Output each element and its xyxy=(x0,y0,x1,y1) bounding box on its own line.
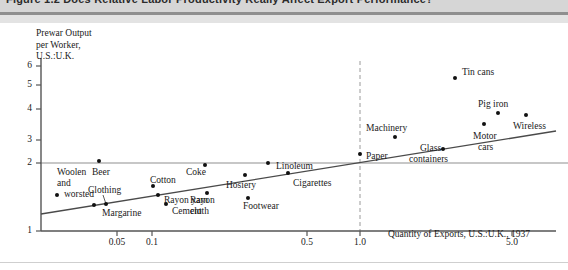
data-point xyxy=(243,173,247,177)
point-label-coke: Coke xyxy=(186,167,206,178)
data-point xyxy=(482,122,486,126)
y-axis-title-line3: U.S.:U.K. xyxy=(36,51,92,63)
data-point xyxy=(104,202,108,206)
figure-bottom-band xyxy=(0,263,568,270)
point-label-wireless: Wireless xyxy=(513,121,546,132)
data-point xyxy=(524,113,528,117)
caption-divider-shadow xyxy=(0,15,568,23)
point-label-motor-line1: Motor xyxy=(473,131,497,142)
y-tick-label-6: 6 xyxy=(18,60,32,70)
data-point xyxy=(496,111,500,115)
point-label-cigarettes: Cigarettes xyxy=(293,178,332,189)
figure-caption: Figure 1.2 Does Relative Labor Productiv… xyxy=(6,0,433,5)
plot-area: Prewar Output per Worker, U.S.:U.K. 6 5 … xyxy=(0,23,568,253)
data-point xyxy=(97,159,101,163)
y-tick-label-4: 4 xyxy=(18,103,32,113)
y-tick-label-5: 5 xyxy=(18,79,32,89)
point-label-pig-iron: Pig iron xyxy=(478,99,508,110)
point-label-hosiery: Hosiery xyxy=(226,180,256,191)
point-label-beer: Beer xyxy=(92,167,110,178)
data-point xyxy=(266,161,270,165)
point-label-woolen-line2: and xyxy=(57,178,71,189)
figure-container: Figure 1.2 Does Relative Labor Productiv… xyxy=(0,0,568,270)
data-point xyxy=(55,193,59,197)
data-point xyxy=(246,196,250,200)
point-label-footwear: Footwear xyxy=(243,201,279,212)
point-label-rayon-cloth-l2: cloth xyxy=(190,206,209,217)
data-point xyxy=(286,171,290,175)
point-label-glass-line2: containers xyxy=(409,154,448,165)
data-point xyxy=(156,193,160,197)
point-label-woolen-line1: Woolen xyxy=(57,167,86,178)
point-label-glass-line1: Glass xyxy=(420,143,441,154)
x-tick-label-10: 1.0 xyxy=(344,237,376,247)
point-label-machinery: Machinery xyxy=(366,123,407,134)
point-label-cotton: Cotton xyxy=(150,175,176,186)
x-tick-label-005: 0.05 xyxy=(97,237,137,247)
y-axis-title: Prewar Output per Worker, U.S.:U.K. xyxy=(36,28,92,63)
point-label-rayon-cloth-l1: Rayon xyxy=(190,195,215,206)
point-label-motor-line2: cars xyxy=(478,142,493,153)
y-tick-label-1: 1 xyxy=(18,225,32,235)
y-axis-title-line2: per Worker, xyxy=(36,40,92,52)
data-point xyxy=(393,135,397,139)
x-tick-label-01: 0.1 xyxy=(136,237,168,247)
point-label-paper: Paper xyxy=(366,151,388,162)
figure-caption-band: Figure 1.2 Does Relative Labor Productiv… xyxy=(0,0,568,12)
point-label-linoleum: Linoleum xyxy=(276,161,313,172)
x-axis-title: Quantity of Exports, U.S.:U.K., 1937 xyxy=(388,229,530,239)
x-tick-label-05: 0.5 xyxy=(291,237,323,247)
y-axis-title-line1: Prewar Output xyxy=(36,28,92,40)
data-point xyxy=(92,203,96,207)
point-label-tin-cans: Tin cans xyxy=(462,67,494,78)
point-label-margarine: Margarine xyxy=(102,208,141,219)
point-label-clothing: Clothing xyxy=(88,185,121,196)
y-tick-label-2: 2 xyxy=(18,157,32,167)
y-tick-label-3: 3 xyxy=(18,134,32,144)
data-point xyxy=(358,152,362,156)
data-point xyxy=(441,147,445,151)
data-point xyxy=(453,76,457,80)
